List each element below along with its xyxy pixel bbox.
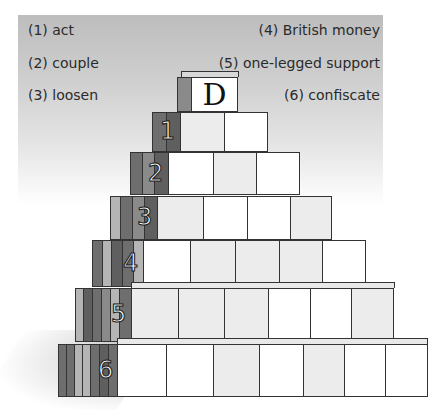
row-6-number: 6 (98, 356, 113, 384)
clue-2: (2) couple (28, 55, 99, 71)
clue-4: (4) British money (258, 22, 380, 38)
row-5-number: 5 (111, 300, 126, 328)
answer-box[interactable] (259, 344, 304, 397)
clue-6: (6) confiscate (284, 87, 380, 103)
row-5: 5 (75, 288, 395, 342)
row-1: 1 (152, 112, 268, 152)
answer-box[interactable] (190, 240, 236, 287)
answer-box[interactable] (224, 112, 268, 152)
clue-3: (3) loosen (28, 87, 98, 103)
answer-box[interactable] (131, 288, 179, 342)
clue-5: (5) one-legged support (219, 55, 380, 71)
answer-box[interactable] (322, 240, 366, 287)
row-3-answer[interactable] (157, 196, 332, 240)
answer-box[interactable] (168, 152, 214, 195)
answer-box[interactable] (117, 344, 167, 397)
row-6-answer[interactable] (117, 344, 428, 397)
answer-box[interactable] (180, 112, 225, 152)
answer-box[interactable] (213, 152, 258, 195)
top-block: D (177, 77, 239, 112)
row-3: 3 (110, 196, 332, 240)
answer-box[interactable] (203, 196, 248, 240)
answer-box[interactable] (303, 344, 345, 397)
answer-box[interactable] (157, 196, 204, 240)
row-1-number: 1 (160, 117, 175, 145)
row-2-answer[interactable] (168, 152, 300, 195)
answer-box[interactable] (143, 240, 191, 287)
answer-box[interactable] (268, 288, 311, 342)
row-2: 2 (130, 152, 300, 195)
row-4-answer[interactable] (143, 240, 366, 287)
answer-box[interactable] (213, 344, 260, 397)
answer-box[interactable] (166, 344, 214, 397)
row-2-number: 2 (148, 159, 163, 187)
answer-box[interactable] (256, 152, 300, 195)
letter-box-d[interactable]: D (191, 77, 238, 112)
answer-box[interactable] (247, 196, 291, 240)
row-4-number: 4 (123, 249, 138, 277)
answer-box[interactable] (310, 288, 352, 342)
answer-box[interactable] (224, 288, 269, 342)
row-3-number: 3 (137, 203, 152, 231)
row-4: 4 (92, 240, 366, 287)
row-1-answer[interactable] (180, 112, 268, 152)
answer-box[interactable] (235, 240, 280, 287)
answer-box[interactable] (351, 288, 394, 342)
answer-box[interactable] (279, 240, 323, 287)
answer-box[interactable] (385, 344, 428, 397)
answer-box[interactable] (290, 196, 332, 240)
answer-box[interactable] (178, 288, 225, 342)
answer-box[interactable] (344, 344, 386, 397)
row-5-answer[interactable] (131, 288, 395, 342)
clue-1: (1) act (28, 22, 74, 38)
row-6: 6 (58, 344, 428, 397)
